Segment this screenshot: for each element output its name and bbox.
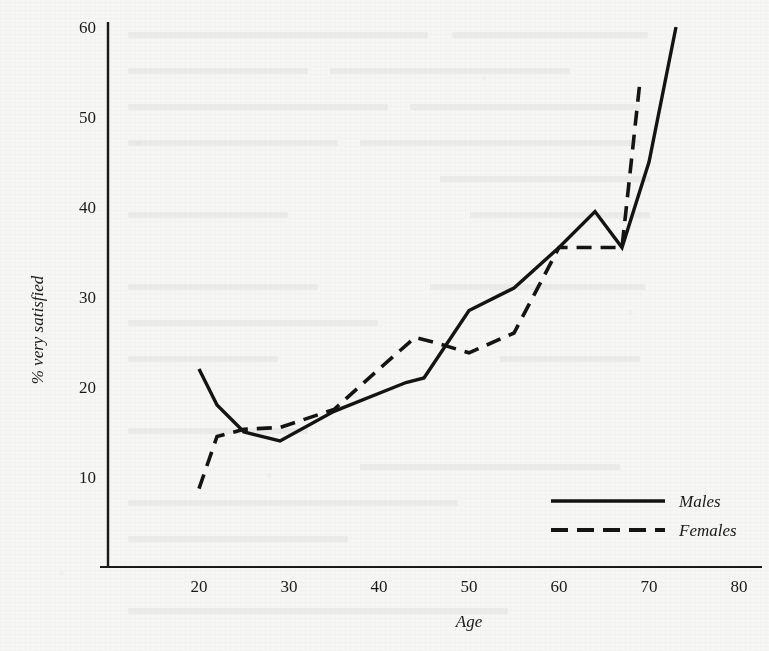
line-chart: 60 50 40 30 20 10 20 30 40 50 60 70 80 A…	[0, 0, 769, 651]
legend-label-males: Males	[678, 492, 721, 511]
x-tick-label: 20	[191, 577, 208, 596]
legend-label-females: Females	[678, 521, 737, 540]
y-tick-label: 50	[79, 108, 96, 127]
x-tick-label: 30	[281, 577, 298, 596]
x-tick-label: 80	[731, 577, 748, 596]
series-line-males	[199, 27, 676, 441]
y-tick-label: 40	[79, 198, 96, 217]
x-tick-label: 50	[461, 577, 478, 596]
y-tick-label: 10	[79, 468, 96, 487]
y-tick-label: 60	[79, 18, 96, 37]
series-line-females	[199, 81, 640, 489]
y-axis-title: % very satisfied	[28, 275, 47, 384]
x-tick-label: 60	[551, 577, 568, 596]
y-tick-label: 20	[79, 378, 96, 397]
x-axis-title: Age	[455, 612, 483, 631]
series-group	[199, 27, 676, 489]
legend: Males Females	[551, 492, 737, 540]
x-tick-label: 70	[641, 577, 658, 596]
y-tick-label: 30	[79, 288, 96, 307]
x-tick-label: 40	[371, 577, 388, 596]
figure-page: 60 50 40 30 20 10 20 30 40 50 60 70 80 A…	[0, 0, 769, 651]
x-tick-labels: 20 30 40 50 60 70 80	[191, 577, 748, 596]
y-tick-labels: 60 50 40 30 20 10	[79, 18, 96, 487]
